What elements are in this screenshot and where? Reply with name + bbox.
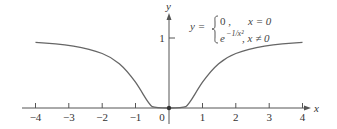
x-tick-label: 2 [233,111,239,123]
x-tick-label: 3 [266,111,272,123]
x-tick-label: −3 [63,111,75,123]
function-graph: x y −4 −3 −2 −1 0 1 2 3 4 1 y = 0 , x = … [0,0,337,129]
case1-condition: x = 0 [247,15,272,27]
x-axis-arrow-icon [304,106,311,111]
x-tick-label: 1 [200,111,206,123]
case2-condition: , x ≠ 0 [242,32,270,44]
origin-point [167,106,171,110]
y-axis-label: y [165,0,171,12]
x-tick-label: 0 [159,111,165,123]
x-axis-label: x [313,102,319,114]
x-tick-labels: −4 −3 −2 −1 0 1 2 3 4 [30,111,306,123]
equation-annotation: y = 0 , x = 0 e −1/x² , x ≠ 0 [189,15,272,44]
x-tick-label: −1 [130,111,142,123]
case1-value: 0 , [220,15,231,27]
case2-base: e [220,32,225,44]
x-tick-label: −2 [96,111,108,123]
brace [212,16,218,43]
y-tick-label: 1 [159,32,165,44]
x-tick-label: 4 [300,111,306,123]
y-axis-arrow-icon [167,13,172,20]
x-tick-label: −4 [30,111,42,123]
equation-lhs: y = [189,20,205,32]
